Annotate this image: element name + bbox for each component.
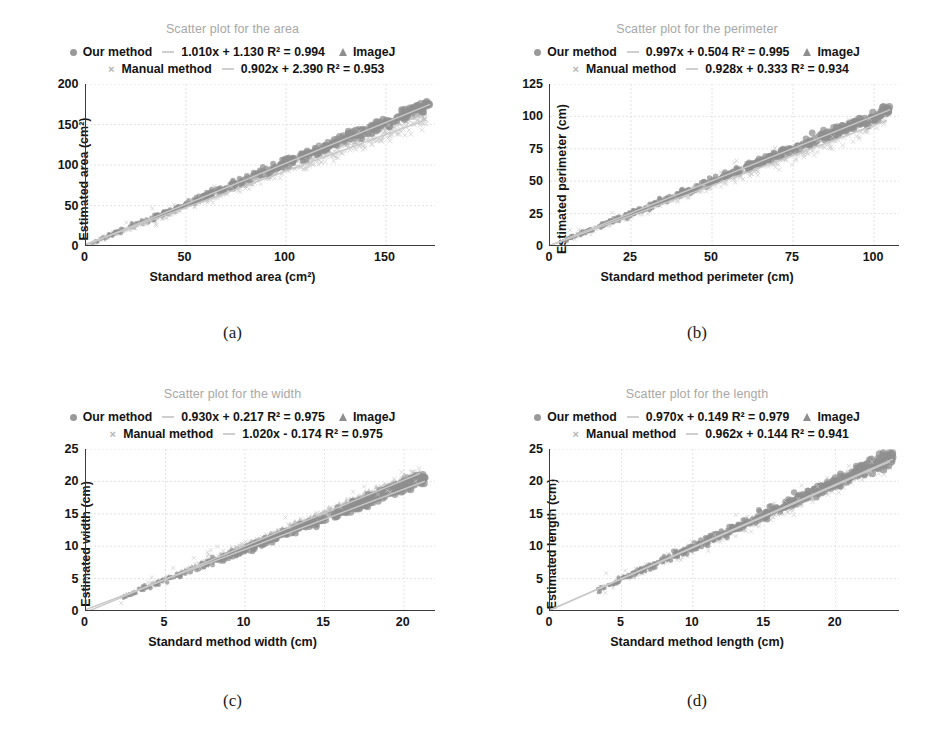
legend-row-primary: Our method 0.970x + 0.149 R² = 0.979 Ima… xyxy=(534,410,860,424)
x-tick-label: 5 xyxy=(161,615,168,629)
dash-line-icon xyxy=(686,433,698,435)
y-tick-label: 20 xyxy=(513,474,543,488)
trendline xyxy=(86,104,430,245)
chart-legend-a: Our method 1.010x + 1.130 R² = 0.994 Ima… xyxy=(70,45,396,76)
y-tick-label: 100 xyxy=(49,158,79,172)
panel-label-b: (b) xyxy=(465,323,929,343)
legend-label-our-method: Our method xyxy=(547,45,617,59)
scatter-canvas-d xyxy=(550,449,899,611)
trendline xyxy=(550,462,890,610)
filled-circle-marker-icon xyxy=(70,49,77,56)
legend-row-primary: Our method 0.930x + 0.217 R² = 0.975 Ima… xyxy=(70,410,396,424)
x-axis-ticks-c: 05101520 xyxy=(85,611,435,631)
panel-a: Scatter plot for the area Our method 1.0… xyxy=(0,0,465,365)
dash-line-icon xyxy=(222,68,234,70)
plot-container-b: Estimated perimeter (cm) 0255075100125 0… xyxy=(487,84,907,274)
legend-label-manual-method: Manual method xyxy=(123,427,213,441)
x-axis-ticks-d: 05101520 xyxy=(549,611,899,631)
legend-item-our-method: Our method xyxy=(70,410,153,424)
dash-line-icon xyxy=(162,416,174,418)
chart-legend-d: Our method 0.970x + 0.149 R² = 0.979 Ima… xyxy=(534,410,860,441)
scatter-canvas-c xyxy=(86,449,435,611)
filled-circle-marker-icon xyxy=(534,49,541,56)
legend-label-imagej: ImageJ xyxy=(817,410,859,424)
x-tick-label: 150 xyxy=(374,250,395,264)
cross-marker-icon: × xyxy=(107,65,116,74)
panel-label-a: (a) xyxy=(0,323,465,343)
legend-item-our-method: Our method xyxy=(70,45,153,59)
y-tick-label: 0 xyxy=(513,604,543,618)
x-tick-label: 25 xyxy=(623,250,637,264)
filled-circle-marker-icon xyxy=(70,414,77,421)
legend-label-our-method: Our method xyxy=(83,410,153,424)
y-tick-label: 200 xyxy=(49,77,79,91)
y-tick-label: 5 xyxy=(513,572,543,586)
legend-item-imagej: ImageJ xyxy=(803,410,859,424)
legend-item-imagej: ImageJ xyxy=(803,45,859,59)
y-axis-ticks-a: 050100150200 xyxy=(49,84,79,274)
y-axis-ticks-d: 0510152025 xyxy=(513,449,543,639)
chart-legend-c: Our method 0.930x + 0.217 R² = 0.975 Ima… xyxy=(70,410,396,441)
y-tick-label: 0 xyxy=(49,604,79,618)
legend-equation-our-method: 0.970x + 0.149 R² = 0.979 xyxy=(646,410,790,424)
dash-line-icon xyxy=(627,416,639,418)
x-tick-label: 0 xyxy=(81,250,88,264)
y-tick-label: 15 xyxy=(49,507,79,521)
legend-equation-manual-method: 0.902x + 2.390 R² = 0.953 xyxy=(241,62,385,76)
y-tick-label: 0 xyxy=(513,239,543,253)
x-axis-label-a: Standard method area (cm²) xyxy=(23,270,443,284)
y-tick-label: 10 xyxy=(49,539,79,553)
x-axis-ticks-b: 0255075100 xyxy=(549,246,899,266)
x-tick-label: 0 xyxy=(546,250,553,264)
plot-area-c xyxy=(85,449,435,611)
panel-b: Scatter plot for the perimeter Our metho… xyxy=(465,0,929,365)
x-tick-label: 20 xyxy=(396,615,410,629)
legend-label-our-method: Our method xyxy=(547,410,617,424)
chart-title-a: Scatter plot for the area xyxy=(166,22,299,36)
plot-container-a: Estimated area (cm²) 050100150200 050100… xyxy=(23,84,443,274)
y-tick-label: 5 xyxy=(49,572,79,586)
scatter-canvas-b xyxy=(550,84,899,246)
plot-container-c: Estimated width (cm) 0510152025 05101520… xyxy=(23,449,443,639)
y-tick-label: 10 xyxy=(513,539,543,553)
triangle-marker-icon xyxy=(339,413,347,421)
x-tick-label: 50 xyxy=(704,250,718,264)
legend-row-secondary: × Manual method 0.962x + 0.144 R² = 0.94… xyxy=(545,427,849,441)
legend-item-manual-method: × Manual method xyxy=(571,427,676,441)
trendline xyxy=(550,110,890,246)
legend-row-primary: Our method 1.010x + 1.130 R² = 0.994 Ima… xyxy=(70,45,396,59)
legend-item-manual-method: × Manual method xyxy=(108,427,213,441)
legend-row-secondary: × Manual method 1.020x - 0.174 R² = 0.97… xyxy=(82,427,383,441)
triangle-marker-icon xyxy=(803,48,811,56)
y-tick-label: 50 xyxy=(49,199,79,213)
x-axis-label-c: Standard method width (cm) xyxy=(23,635,443,649)
series-points-our-method xyxy=(121,471,428,600)
plot-area-a xyxy=(85,84,435,246)
legend-equation-manual-method: 0.928x + 0.333 R² = 0.934 xyxy=(705,62,849,76)
legend-label-manual-method: Manual method xyxy=(586,62,676,76)
legend-label-imagej: ImageJ xyxy=(353,45,395,59)
x-tick-label: 15 xyxy=(316,615,330,629)
legend-label-our-method: Our method xyxy=(83,45,153,59)
chart-title-d: Scatter plot for the length xyxy=(626,387,768,401)
x-tick-label: 10 xyxy=(685,615,699,629)
y-axis-ticks-b: 0255075100125 xyxy=(513,84,543,274)
dash-line-icon xyxy=(223,433,235,435)
y-tick-label: 0 xyxy=(49,239,79,253)
legend-equation-our-method: 0.997x + 0.504 R² = 0.995 xyxy=(646,45,790,59)
dash-line-icon xyxy=(162,51,174,53)
x-axis-ticks-a: 050100150 xyxy=(85,246,435,266)
chart-legend-b: Our method 0.997x + 0.504 R² = 0.995 Ima… xyxy=(534,45,860,76)
legend-equation-our-method: 0.930x + 0.217 R² = 0.975 xyxy=(181,410,325,424)
x-tick-label: 10 xyxy=(237,615,251,629)
plot-container-d: Estimated length (cm) 0510152025 0510152… xyxy=(487,449,907,639)
y-tick-label: 125 xyxy=(513,77,543,91)
y-tick-label: 100 xyxy=(513,109,543,123)
panel-label-d: (d) xyxy=(465,691,929,711)
x-tick-label: 75 xyxy=(785,250,799,264)
cross-marker-icon: × xyxy=(571,430,580,439)
legend-equation-our-method: 1.010x + 1.130 R² = 0.994 xyxy=(181,45,325,59)
legend-item-manual-method: × Manual method xyxy=(107,62,212,76)
y-tick-label: 25 xyxy=(49,442,79,456)
panel-label-c: (c) xyxy=(0,691,465,711)
